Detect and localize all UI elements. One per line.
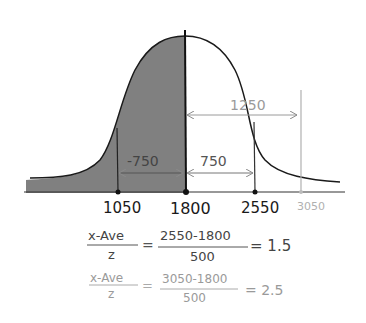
label-far-span: 1250	[230, 97, 266, 113]
axis-label-1800: 1800	[170, 199, 211, 218]
eq1-numerator-left: x-Ave	[88, 228, 124, 243]
normal-curve-diagram: -750 750 1250 1050 1800 2550 3050 x-Ave …	[0, 0, 366, 323]
eq2-denominator-left: z	[108, 287, 114, 301]
eq1-equals: =	[142, 237, 154, 253]
equation-2: x-Ave z = 3050-1800 500 = 2.5	[89, 271, 283, 305]
label-left-span: -750	[127, 153, 159, 169]
line-1800	[185, 30, 186, 192]
axis-label-3050: 3050	[297, 200, 325, 213]
eq1-denominator-right: 500	[190, 249, 215, 264]
line-2550	[254, 122, 255, 192]
axis-label-1050: 1050	[103, 199, 141, 217]
eq2-numerator-right: 3050-1800	[162, 272, 227, 286]
point-2550	[253, 190, 258, 195]
point-1050	[116, 190, 121, 195]
axis-label-2550: 2550	[241, 199, 279, 217]
point-3050	[299, 190, 303, 194]
eq1-numerator-right: 2550-1800	[160, 228, 231, 243]
eq1-result: = 1.5	[250, 237, 291, 255]
equation-1: x-Ave z = 2550-1800 500 = 1.5	[87, 228, 291, 264]
shaded-area-left-half	[26, 36, 185, 193]
eq2-result: = 2.5	[245, 282, 283, 298]
eq2-equals: =	[142, 278, 153, 293]
label-right-span: 750	[200, 153, 227, 169]
eq2-numerator-left: x-Ave	[90, 271, 123, 285]
eq2-denominator-right: 500	[183, 291, 206, 305]
eq1-denominator-left: z	[108, 247, 115, 262]
point-1800	[183, 189, 189, 195]
